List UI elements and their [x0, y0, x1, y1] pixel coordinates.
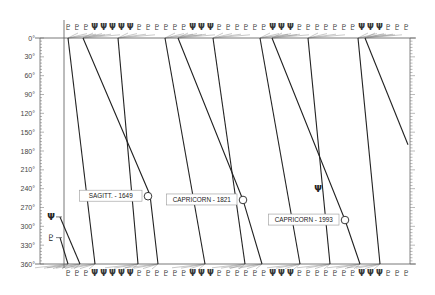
pluto-symbol: ♇	[233, 269, 240, 278]
pluto-symbol: ♇	[305, 23, 312, 32]
y-tick-label: 300°	[21, 223, 36, 230]
pluto-symbol: ♇	[180, 23, 187, 32]
cycle-line	[60, 217, 80, 264]
pluto-symbol: ♇	[260, 23, 267, 32]
neptune-symbol: Ψ	[127, 269, 134, 278]
neptune-symbol: Ψ	[278, 269, 285, 278]
neptune-symbol: Ψ	[118, 269, 125, 278]
neptune-symbol: Ψ	[47, 212, 55, 222]
pluto-symbol: ♇	[180, 269, 187, 278]
pluto-symbol: ♇	[82, 23, 89, 32]
y-tick-label: 120°	[21, 110, 36, 117]
neptune-symbol: Ψ	[109, 269, 116, 278]
pluto-symbol: ♇	[153, 269, 160, 278]
neptune-symbol: Ψ	[100, 23, 107, 32]
y-axis-labels: 0°30°60°90°120°150°180°210°240°270°300°3…	[21, 35, 36, 268]
pluto-symbol: ♇	[349, 23, 356, 32]
neptune-symbol: Ψ	[91, 269, 98, 278]
pluto-symbol: ♇	[136, 23, 143, 32]
pluto-symbol: ♇	[144, 23, 151, 32]
y-tick-label: 360°	[21, 261, 36, 268]
y-tick-label: 210°	[21, 166, 36, 173]
fan-lines	[35, 33, 402, 269]
neptune-symbol: Ψ	[287, 23, 294, 32]
symbol-rows: ♇♇♇ΨΨΨΨΨ♇♇♇♇♇♇ΨΨΨ♇♇♇♇♇♇ΨΨΨ♇♇♇♇♇♇♇ΨΨΨ♇♇♇♇…	[64, 23, 409, 278]
pluto-symbol: ♇	[402, 23, 409, 32]
cycle-line	[358, 38, 380, 264]
conjunction-marker	[341, 216, 349, 224]
chart: 0°30°60°90°120°150°180°210°240°270°300°3…	[0, 0, 435, 295]
pluto-symbol: ♇	[260, 269, 267, 278]
annotation-label: CAPRICORN - 1821	[173, 196, 232, 203]
y-tick-label: 30°	[24, 53, 35, 60]
axes	[35, 20, 416, 268]
conjunction-marker	[239, 196, 247, 204]
cycle-line	[308, 38, 330, 264]
pluto-symbol: ♇	[385, 23, 392, 32]
y-tick-label: 330°	[21, 242, 36, 249]
y-tick-label: 150°	[21, 129, 36, 136]
pluto-symbol: ♇	[394, 23, 401, 32]
neptune-symbol: Ψ	[189, 23, 196, 32]
annotation: CAPRICORN - 1993	[269, 214, 349, 225]
pluto-symbol: ♇	[251, 23, 258, 32]
neptune-symbol: Ψ	[207, 269, 214, 278]
neptune-symbol: Ψ	[287, 269, 294, 278]
pluto-symbol: ♇	[162, 269, 169, 278]
pluto-symbol: ♇	[313, 23, 320, 32]
pluto-symbol: ♇	[73, 269, 80, 278]
pluto-symbol: ♇	[64, 23, 71, 32]
y-tick-label: 270°	[21, 204, 36, 211]
neptune-symbol: Ψ	[269, 269, 276, 278]
neptune-symbol: Ψ	[127, 23, 134, 32]
pluto-symbol: ♇	[73, 23, 80, 32]
annotations: SAGITT. - 1649CAPRICORN - 1821CAPRICORN …	[79, 190, 348, 225]
neptune-symbol: Ψ	[118, 23, 125, 32]
pluto-symbol: ♇	[340, 269, 347, 278]
cycle-line	[68, 38, 95, 264]
neptune-symbol: Ψ	[367, 269, 374, 278]
pluto-symbol: ♇	[305, 269, 312, 278]
neptune-symbol: Ψ	[100, 269, 107, 278]
cycle-line	[165, 38, 205, 264]
pluto-symbol: ♇	[171, 23, 178, 32]
pluto-symbol: ♇	[402, 269, 409, 278]
cycle-line	[260, 38, 300, 264]
y-tick-label: 90°	[24, 91, 35, 98]
annotation: CAPRICORN - 1821	[167, 194, 247, 205]
conjunction-marker	[144, 192, 152, 200]
annotation-label: SAGITT. - 1649	[89, 192, 133, 199]
pluto-symbol: ♇	[225, 269, 232, 278]
pluto-symbol: ♇	[162, 23, 169, 32]
neptune-symbol: Ψ	[189, 269, 196, 278]
pluto-symbol: ♇	[242, 269, 249, 278]
neptune-symbol: Ψ	[376, 23, 383, 32]
pluto-symbol: ♇	[136, 269, 143, 278]
annotation-label: CAPRICORN - 1993	[275, 216, 334, 223]
neptune-symbol: Ψ	[314, 184, 322, 194]
pluto-symbol: ♇	[385, 269, 392, 278]
pluto-symbol: ♇	[340, 23, 347, 32]
y-tick-label: 0°	[28, 35, 35, 42]
pluto-symbol: ♇	[144, 269, 151, 278]
y-tick-label: 240°	[21, 185, 36, 192]
neptune-symbol: Ψ	[91, 23, 98, 32]
neptune-symbol: Ψ	[367, 23, 374, 32]
y-tick-label: 180°	[21, 148, 36, 155]
pluto-symbol: ♇	[296, 269, 303, 278]
cycle-line	[118, 38, 138, 264]
pluto-symbol: ♇	[331, 269, 338, 278]
cycle-line	[365, 38, 408, 145]
cycle-line	[178, 38, 262, 264]
neptune-symbol: Ψ	[358, 269, 365, 278]
pluto-symbol: ♇	[47, 233, 55, 243]
pluto-symbol: ♇	[313, 269, 320, 278]
pluto-symbol: ♇	[296, 23, 303, 32]
pluto-symbol: ♇	[394, 269, 401, 278]
pluto-symbol: ♇	[171, 269, 178, 278]
pluto-symbol: ♇	[322, 269, 329, 278]
pluto-symbol: ♇	[153, 23, 160, 32]
neptune-symbol: Ψ	[198, 23, 205, 32]
pluto-symbol: ♇	[233, 23, 240, 32]
cycle-lines	[60, 38, 408, 264]
